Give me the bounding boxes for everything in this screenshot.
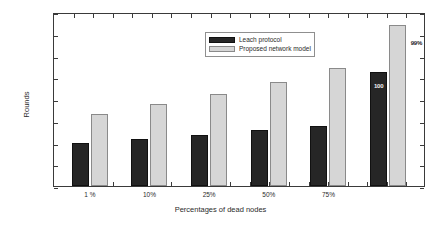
bar-value-annotation: 100 bbox=[374, 83, 383, 89]
bar-group bbox=[67, 14, 113, 186]
x-tick-label: 1 % bbox=[84, 191, 95, 198]
bar-proposed bbox=[210, 94, 227, 186]
legend-label-proposed-network-model: Proposed network model bbox=[239, 45, 311, 53]
x-axis-title: Percentages of dead nodes bbox=[0, 205, 441, 214]
bar-leach bbox=[131, 139, 148, 186]
legend-entry-leach-protocol: Leach protocol bbox=[209, 36, 311, 44]
bar-group: 10099% bbox=[365, 14, 411, 186]
y-tick-mark bbox=[420, 188, 424, 189]
bar-value-annotation: 99% bbox=[411, 40, 422, 46]
bar-proposed bbox=[91, 114, 108, 186]
y-axis-title: Rounds bbox=[22, 65, 31, 145]
x-tick-label: 75% bbox=[322, 191, 335, 198]
bar-proposed bbox=[329, 68, 346, 186]
y-tick-mark bbox=[54, 188, 58, 189]
bar-leach bbox=[72, 143, 89, 186]
x-tick-label: 25% bbox=[203, 191, 216, 198]
x-tick-label: 10% bbox=[143, 191, 156, 198]
bar-proposed: 99% bbox=[389, 25, 406, 186]
legend-swatch-leach-protocol bbox=[209, 37, 235, 43]
legend-entry-proposed-network-model: Proposed network model bbox=[209, 45, 311, 53]
bar-leach bbox=[310, 126, 327, 186]
bar-proposed bbox=[270, 82, 287, 186]
legend-swatch-proposed-network-model bbox=[209, 46, 235, 52]
bar-leach bbox=[251, 130, 268, 186]
bar-chart-figure: Rounds 05001000150020002500300035004000 … bbox=[0, 0, 441, 229]
plot-area: 10099% Leach protocol Proposed network m… bbox=[53, 13, 425, 187]
bar-leach: 100 bbox=[370, 72, 387, 186]
chart-legend: Leach protocol Proposed network model bbox=[205, 32, 315, 57]
bar-leach bbox=[191, 135, 208, 186]
x-tick-label: 50% bbox=[262, 191, 275, 198]
legend-label-leach-protocol: Leach protocol bbox=[239, 36, 282, 44]
bar-proposed bbox=[150, 104, 167, 186]
bar-group bbox=[126, 14, 172, 186]
